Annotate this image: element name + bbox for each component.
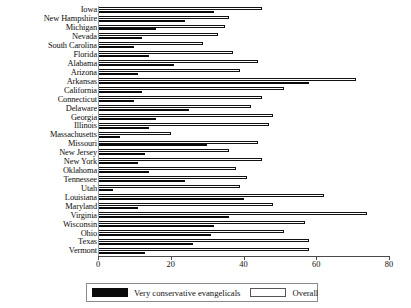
- bar-overall: [98, 194, 324, 197]
- bar-row: Texas: [0, 238, 411, 247]
- bar-very-conservative-evangelicals: [98, 46, 134, 48]
- bar-pair: [98, 15, 411, 24]
- y-axis-line: [98, 6, 99, 256]
- bar-row: Wisconsin: [0, 220, 411, 229]
- bar-very-conservative-evangelicals: [98, 234, 211, 236]
- bar-pair: [98, 77, 411, 86]
- bar-row: Maryland: [0, 202, 411, 211]
- bar-row: Louisiana: [0, 193, 411, 202]
- bar-pair: [98, 184, 411, 193]
- bar-pair: [98, 60, 411, 69]
- bar-very-conservative-evangelicals: [98, 55, 149, 57]
- chart-legend: Very conservative evangelicals Overall: [86, 283, 318, 302]
- bar-very-conservative-evangelicals: [98, 153, 145, 155]
- bar-overall: [98, 176, 247, 179]
- bar-very-conservative-evangelicals: [98, 198, 244, 200]
- bar-row: Arizona: [0, 68, 411, 77]
- bar-row: New Jersey: [0, 149, 411, 158]
- bar-row-label: Vermont: [69, 247, 97, 255]
- bar-pair: [98, 122, 411, 131]
- bar-very-conservative-evangelicals: [98, 243, 193, 245]
- bar-row: South Carolina: [0, 42, 411, 51]
- bar-pair: [98, 95, 411, 104]
- bar-pair: [98, 104, 411, 113]
- bar-overall: [98, 114, 273, 117]
- bar-very-conservative-evangelicals: [98, 171, 149, 173]
- bar-very-conservative-evangelicals: [98, 28, 156, 30]
- bar-row: Oklahoma: [0, 167, 411, 176]
- bar-row: Massachusetts: [0, 131, 411, 140]
- bar-overall: [98, 87, 284, 90]
- bar-row: Florida: [0, 51, 411, 60]
- bar-row: Virginia: [0, 211, 411, 220]
- bar-rows: IowaNew HampshireMichiganNevadaSouth Car…: [0, 6, 411, 256]
- bar-pair: [98, 131, 411, 140]
- bar-row: Georgia: [0, 113, 411, 122]
- bar-very-conservative-evangelicals: [98, 252, 145, 254]
- bar-very-conservative-evangelicals: [98, 37, 142, 39]
- bar-row: New Hampshire: [0, 15, 411, 24]
- bar-pair: [98, 229, 411, 238]
- bar-very-conservative-evangelicals: [98, 144, 207, 146]
- bar-overall: [98, 185, 240, 188]
- bar-chart: IowaNew HampshireMichiganNevadaSouth Car…: [0, 0, 411, 308]
- bar-row: Utah: [0, 184, 411, 193]
- legend-item-overall: Overall: [250, 288, 328, 298]
- x-axis-tick-label: 60: [312, 260, 320, 269]
- x-axis-tick-label: 80: [385, 260, 393, 269]
- bar-row: Arkansas: [0, 77, 411, 86]
- bar-overall: [98, 132, 171, 135]
- bar-overall: [98, 16, 229, 19]
- bar-overall: [98, 203, 273, 206]
- legend-label-overall: Overall: [292, 288, 318, 298]
- bar-very-conservative-evangelicals: [98, 162, 138, 164]
- bar-pair: [98, 176, 411, 185]
- bar-very-conservative-evangelicals: [98, 118, 156, 120]
- bar-pair: [98, 220, 411, 229]
- bar-overall: [98, 158, 262, 161]
- bar-pair: [98, 167, 411, 176]
- bar-row: Delaware: [0, 104, 411, 113]
- x-axis-tick-label: 40: [239, 260, 247, 269]
- bar-pair: [98, 24, 411, 33]
- bar-pair: [98, 149, 411, 158]
- bar-pair: [98, 6, 411, 15]
- bar-overall: [98, 230, 284, 233]
- bar-very-conservative-evangelicals: [98, 11, 214, 13]
- bar-pair: [98, 238, 411, 247]
- bar-overall: [98, 167, 236, 170]
- bar-overall: [98, 123, 269, 126]
- legend-item-very-conservative-evangelicals: Very conservative evangelicals: [92, 288, 250, 298]
- bar-pair: [98, 113, 411, 122]
- bar-overall: [98, 212, 367, 215]
- x-axis-tick-label: 0: [96, 260, 100, 269]
- bar-very-conservative-evangelicals: [98, 20, 185, 22]
- bar-row: Tennessee: [0, 176, 411, 185]
- bar-pair: [98, 33, 411, 42]
- bar-overall: [98, 221, 305, 224]
- bar-row: New York: [0, 158, 411, 167]
- bar-overall: [98, 248, 309, 251]
- bar-pair: [98, 86, 411, 95]
- bar-pair: [98, 51, 411, 60]
- bar-very-conservative-evangelicals: [98, 207, 138, 209]
- bar-overall: [98, 7, 262, 10]
- bar-overall: [98, 96, 262, 99]
- bar-very-conservative-evangelicals: [98, 216, 229, 218]
- bar-very-conservative-evangelicals: [98, 91, 142, 93]
- legend-swatch-light: [250, 288, 286, 297]
- bar-very-conservative-evangelicals: [98, 180, 185, 182]
- bar-pair: [98, 158, 411, 167]
- bar-very-conservative-evangelicals: [98, 100, 134, 102]
- bar-pair: [98, 202, 411, 211]
- bar-row: Ohio: [0, 229, 411, 238]
- plot-area: IowaNew HampshireMichiganNevadaSouth Car…: [0, 6, 411, 256]
- bar-overall: [98, 33, 218, 36]
- bar-very-conservative-evangelicals: [98, 64, 174, 66]
- legend-swatch-dark: [92, 288, 128, 297]
- bar-overall: [98, 42, 203, 45]
- bar-very-conservative-evangelicals: [98, 225, 214, 227]
- bar-overall: [98, 60, 258, 63]
- x-axis-tick-label: 20: [167, 260, 175, 269]
- bar-overall: [98, 149, 229, 152]
